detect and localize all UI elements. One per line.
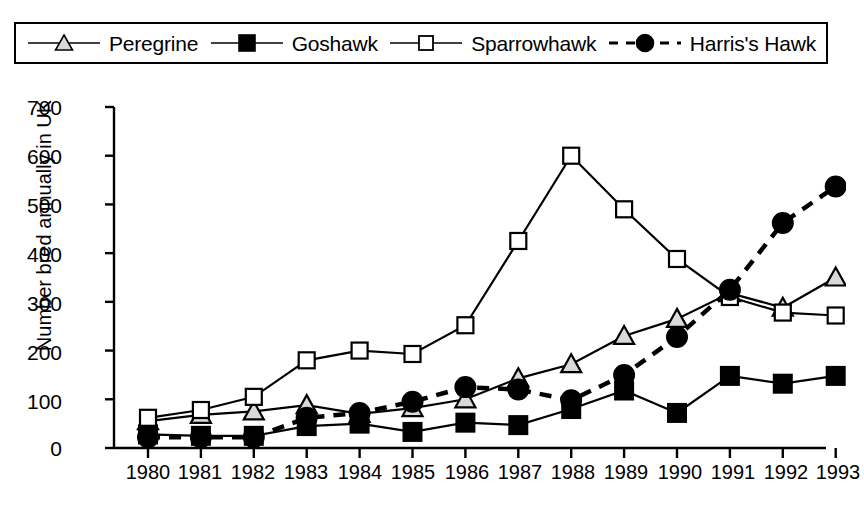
legend-label-sparrowhawk: Sparrowhawk	[471, 33, 596, 54]
data-point-marker	[616, 201, 632, 217]
data-point-marker	[720, 280, 740, 300]
data-point-marker	[456, 414, 474, 432]
data-point-marker	[403, 392, 423, 412]
data-point-marker	[614, 326, 634, 344]
data-point-marker	[669, 251, 685, 267]
data-point-marker	[246, 389, 262, 405]
filled-square-line-key-icon	[209, 32, 285, 54]
legend-entry-sparrowhawk: Sparrowhawk	[388, 32, 596, 54]
filled-circle-dashed-key-icon	[607, 32, 683, 54]
plot-area: Number bred annually in UK 700 600 500 4…	[0, 64, 846, 508]
data-point-marker	[510, 233, 526, 249]
data-point-marker	[827, 367, 845, 385]
data-point-marker	[826, 176, 846, 196]
data-point-marker	[244, 427, 264, 447]
open-triangle-line-key-icon	[26, 32, 102, 54]
legend-label-harriss-hawk: Harris's Hawk	[690, 33, 816, 54]
data-point-marker	[561, 354, 581, 372]
data-point-marker	[404, 423, 422, 441]
legend-label-peregrine: Peregrine	[109, 33, 198, 54]
data-point-marker	[773, 213, 793, 233]
open-square-line-key-icon	[388, 32, 464, 54]
data-point-marker	[138, 427, 158, 447]
data-point-marker	[667, 309, 687, 327]
data-point-marker	[667, 327, 687, 347]
data-point-marker	[299, 352, 315, 368]
data-point-marker	[826, 268, 846, 286]
plot-canvas	[0, 64, 846, 508]
series-layer	[138, 148, 846, 448]
data-point-marker	[405, 346, 421, 362]
data-point-marker	[352, 343, 368, 359]
data-point-marker	[191, 427, 211, 447]
data-point-marker	[775, 305, 791, 321]
legend-entry-peregrine: Peregrine	[26, 32, 198, 54]
data-point-marker	[455, 377, 475, 397]
data-point-marker	[563, 148, 579, 164]
data-point-marker	[828, 307, 844, 323]
data-point-marker	[350, 403, 370, 423]
data-point-marker	[561, 390, 581, 410]
data-point-marker	[508, 380, 528, 400]
legend-entry-harriss-hawk: Harris's Hawk	[607, 32, 816, 54]
data-point-marker	[457, 317, 473, 333]
series-harris-s-hawk	[138, 176, 846, 447]
chart-legend: Peregrine Goshawk Sparrowhawk Harris's H…	[14, 22, 828, 64]
data-point-marker	[721, 367, 739, 385]
data-point-marker	[774, 375, 792, 393]
legend-label-goshawk: Goshawk	[292, 33, 378, 54]
data-point-marker	[668, 404, 686, 422]
data-point-marker	[614, 365, 634, 385]
legend-entry-goshawk: Goshawk	[209, 32, 378, 54]
data-point-marker	[509, 416, 527, 434]
data-point-marker	[297, 408, 317, 428]
data-point-marker	[193, 402, 209, 418]
data-point-marker	[140, 410, 156, 426]
